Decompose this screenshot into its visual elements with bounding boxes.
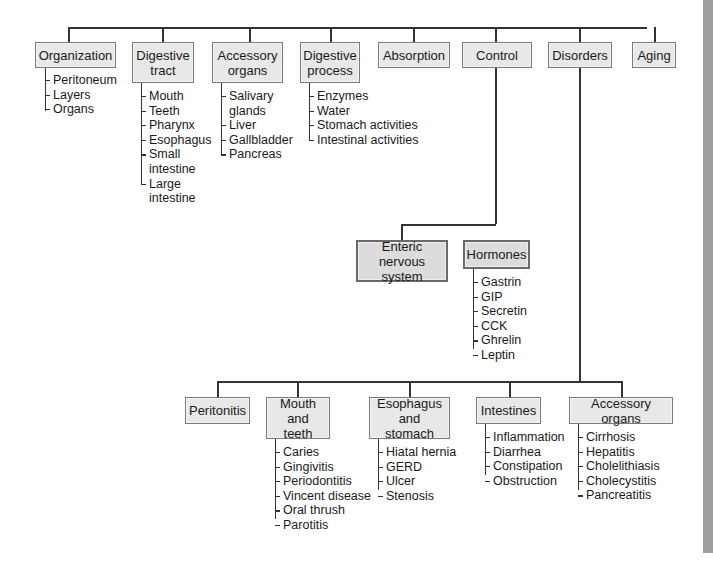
node-esophagus-and-stomach: Esophagus and stomach (369, 397, 450, 439)
list-item: Obstruction (485, 474, 565, 489)
list-item: Teeth (141, 104, 212, 119)
connector (495, 27, 497, 43)
connector (68, 27, 70, 43)
list-item: Secretin (473, 304, 527, 319)
node-label: Organization (39, 48, 113, 63)
node-label: Disorders (552, 48, 608, 63)
list-item: Liver (221, 118, 293, 133)
node-accessory-organs: Accessory organs (212, 42, 283, 83)
list-item: Stenosis (378, 489, 456, 504)
list-item: Layers (45, 88, 117, 103)
node-label: Peritonitis (189, 403, 246, 418)
list-item: Ghrelin (473, 333, 527, 348)
list-item: Caries (275, 445, 371, 460)
disorders-branch (217, 381, 622, 383)
list-item: Pancreatitis (578, 488, 660, 503)
connector (162, 27, 164, 43)
node-label: Absorption (383, 48, 445, 63)
node-digestive-process: Digestive process (300, 42, 360, 83)
control-branch (401, 224, 496, 226)
list-item: Pancreas (221, 147, 293, 162)
list-item: Large intestine (141, 177, 212, 206)
mouth-and-teeth-children: Caries Gingivitis Periodontitis Vincent … (275, 445, 371, 533)
node-label: Intestines (481, 403, 537, 418)
list-item: Mouth (141, 89, 212, 104)
list-item: Esophagus (141, 133, 212, 148)
node-disorders: Disorders (548, 42, 612, 68)
node-label: Accessory organs (574, 396, 668, 426)
list-item: Peritoneum (45, 73, 117, 88)
node-peritonitis: Peritonitis (185, 397, 250, 424)
connector (509, 381, 511, 398)
list-item: Pharynx (141, 118, 212, 133)
hormones-children: Gastrin GIP Secretin CCK Ghrelin Leptin (473, 275, 527, 363)
list-item: Oral thrush (275, 503, 371, 518)
list-item: Small intestine (141, 147, 212, 176)
list-item: Leptin (473, 348, 527, 363)
list-item: Constipation (485, 459, 565, 474)
list-item: CCK (473, 319, 527, 334)
digestive-process-children: Enzymes Water Stomach activities Intesti… (309, 89, 418, 147)
page-edge-bar (703, 0, 713, 553)
connector (654, 27, 656, 43)
accessory-organs-children: Salivary glands Liver Gallbladder Pancre… (221, 89, 293, 162)
list-item: Hepatitis (578, 445, 660, 460)
digestive-tract-children: Mouth Teeth Pharynx Esophagus Small inte… (141, 89, 212, 206)
disorders-connector (579, 68, 581, 382)
node-absorption: Absorption (378, 42, 450, 68)
intestines-children: Inflammation Diarrhea Constipation Obstr… (485, 430, 565, 488)
list-item: Gingivitis (275, 460, 371, 475)
node-label: Accessory organs (218, 48, 278, 78)
list-item: Salivary glands (221, 89, 293, 118)
list-item: Inflammation (485, 430, 565, 445)
connector (330, 27, 332, 43)
list-item: GIP (473, 290, 527, 305)
node-label: Aging (637, 48, 670, 63)
node-mouth-and-teeth: Mouth and teeth (266, 397, 330, 439)
node-label: Mouth and teeth (271, 396, 325, 441)
list-item: Intestinal activities (309, 133, 418, 148)
node-label: Hormones (467, 247, 527, 262)
list-item: Ulcer (378, 474, 456, 489)
accessory-organs-disorders-children: Cirrhosis Hepatitis Cholelithiasis Chole… (578, 430, 660, 503)
list-item: Cirrhosis (578, 430, 660, 445)
organization-children: Peritoneum Layers Organs (45, 73, 117, 117)
list-item: Organs (45, 102, 117, 117)
node-label: Digestive tract (136, 48, 189, 78)
list-item: Parotitis (275, 518, 371, 533)
connector (413, 27, 415, 43)
list-item: Vincent disease (275, 489, 371, 504)
node-label: Digestive process (303, 48, 356, 78)
connector (249, 27, 251, 43)
node-label: Control (476, 48, 518, 63)
connector (579, 27, 581, 43)
node-label: Enteric nervous system (362, 239, 442, 284)
node-control: Control (462, 42, 532, 68)
node-aging: Aging (632, 42, 676, 68)
list-item: Cholelithiasis (578, 459, 660, 474)
node-accessory-organs-disorders: Accessory organs (569, 397, 673, 424)
list-item: Water (309, 104, 418, 119)
list-item: Cholecystitis (578, 474, 660, 489)
list-item: Diarrhea (485, 445, 565, 460)
list-item: Periodontitis (275, 474, 371, 489)
list-item: Enzymes (309, 89, 418, 104)
list-item: Gallbladder (221, 133, 293, 148)
list-item: Gastrin (473, 275, 527, 290)
top-connector (68, 27, 647, 29)
node-digestive-tract: Digestive tract (132, 42, 194, 83)
control-connector (495, 68, 497, 224)
list-item: GERD (378, 460, 456, 475)
list-item: Hiatal hernia (378, 445, 456, 460)
node-intestines: Intestines (476, 397, 541, 424)
esophagus-and-stomach-children: Hiatal hernia GERD Ulcer Stenosis (378, 445, 456, 503)
connector (217, 381, 219, 398)
list-item: Stomach activities (309, 118, 418, 133)
node-label: Esophagus and stomach (374, 396, 445, 441)
node-hormones: Hormones (463, 240, 530, 269)
node-enteric-nervous-system: Enteric nervous system (356, 240, 448, 282)
node-organization: Organization (35, 42, 116, 68)
